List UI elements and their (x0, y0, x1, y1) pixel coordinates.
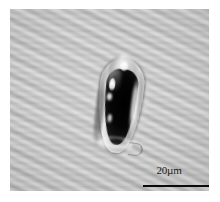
micrograph-figure: 20µm (0, 0, 220, 202)
scale-bar-label: 20µm (133, 164, 205, 176)
micrograph-image-field: 20µm (10, 9, 209, 191)
scale-bar: 20µm (133, 164, 205, 190)
scale-bar-line (143, 185, 209, 187)
specimen-posterior-tail-stub (128, 142, 143, 156)
specimen (84, 50, 157, 162)
